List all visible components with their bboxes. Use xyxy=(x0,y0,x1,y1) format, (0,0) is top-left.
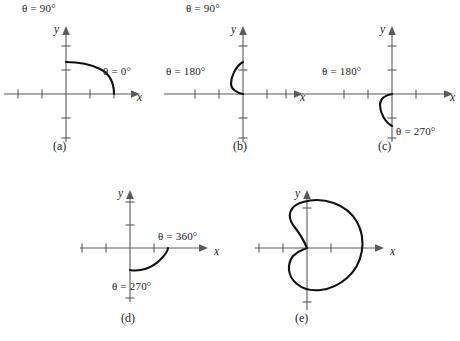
y-axis-arrowhead xyxy=(62,26,70,35)
y-axis-arrowhead xyxy=(126,190,134,199)
angle-label-a-90: θ = 90° xyxy=(22,3,56,14)
panel-d: x y xyxy=(78,180,238,310)
angle-label-c-180: θ = 180° xyxy=(322,66,361,77)
panel-e-plot xyxy=(253,180,423,320)
x-axis-label-a: x xyxy=(137,92,142,104)
y-axis-label-d: y xyxy=(118,188,123,200)
y-axis-arrowhead xyxy=(388,26,396,35)
panel-a-plot xyxy=(0,14,150,144)
y-axis-arrowhead xyxy=(239,26,247,35)
y-axis-label-c: y xyxy=(380,24,385,36)
angle-label-d-270: θ = 270° xyxy=(112,281,151,292)
x-axis-label-d: x xyxy=(214,246,219,258)
x-axis-label-c: x xyxy=(450,92,455,104)
curve-full-e xyxy=(289,200,363,290)
caption-c: (c) xyxy=(378,140,391,152)
polar-curve-figure: x y θ = 90° θ = 0° (a) x y θ = 90° θ = 1… xyxy=(0,0,460,341)
angle-label-c-270: θ = 270° xyxy=(396,126,435,137)
panel-e: x y xyxy=(253,180,423,320)
curve-arc-b xyxy=(231,62,243,94)
panel-a: x y xyxy=(0,14,150,144)
angle-label-a-0: θ = 0° xyxy=(103,66,131,77)
y-axis-label-e: y xyxy=(295,188,300,200)
x-axis-arrowhead xyxy=(375,244,384,252)
y-axis-label-a: y xyxy=(54,24,59,36)
angle-label-d-360: θ = 360° xyxy=(158,231,197,242)
curve-arc-c xyxy=(380,94,392,126)
y-axis-label-b: y xyxy=(231,24,236,36)
caption-e: (e) xyxy=(295,312,308,324)
panel-b: x y xyxy=(158,14,308,144)
panel-c: x y xyxy=(300,14,460,144)
caption-d: (d) xyxy=(121,312,135,324)
x-axis-arrowhead xyxy=(199,244,208,252)
x-axis-label-e: x xyxy=(390,246,395,258)
caption-b: (b) xyxy=(233,140,247,152)
caption-a: (a) xyxy=(53,140,66,152)
angle-label-b-90: θ = 90° xyxy=(186,3,220,14)
y-axis-arrowhead xyxy=(303,190,311,199)
curve-arc-d xyxy=(130,248,168,271)
angle-label-b-180: θ = 180° xyxy=(166,66,205,77)
